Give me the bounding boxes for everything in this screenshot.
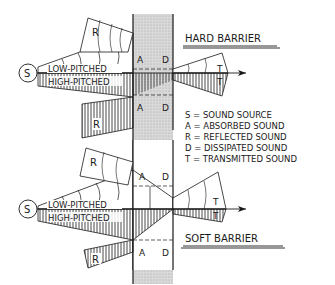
hard-low-pitched-label: LOW-PITCHED — [48, 64, 107, 74]
soft-transmitted-bottom-label: T — [212, 211, 219, 221]
soft-barrier-title: SOFT BARRIER — [185, 233, 258, 244]
sound-barrier-diagram: R R A D A D T T S LOW-PITCHED HIGH-PITCH… — [0, 0, 335, 285]
legend-item-dissipated: D = DISSIPATED SOUND — [185, 143, 288, 153]
soft-source-label: S — [24, 204, 30, 215]
hard-transmitted-top-label: T — [216, 64, 223, 74]
soft-absorbed-bottom-label: A — [139, 248, 146, 258]
soft-absorbed-top-label: A — [139, 172, 146, 182]
hard-reflected-top-label: R — [92, 27, 99, 38]
soft-high-pitched-label: HIGH-PITCHED — [48, 213, 110, 223]
hard-source-label: S — [24, 68, 30, 79]
soft-low-pitched-label: LOW-PITCHED — [48, 200, 107, 210]
hard-dissipated-top-label: D — [162, 55, 169, 65]
hard-reflected-bottom-fan — [82, 97, 133, 138]
soft-reflected-top-label: R — [90, 157, 97, 168]
soft-dissipated-bottom-label: D — [162, 248, 169, 258]
soft-transmitted-top-label: T — [212, 197, 219, 207]
soft-reflected-bottom-label: R — [92, 254, 99, 265]
legend-item-source: S = SOUND SOURCE — [185, 110, 272, 120]
hard-dissipated-bottom-label: D — [162, 103, 169, 113]
legend: S = SOUND SOURCE A = ABSORBED SOUND R = … — [184, 110, 297, 164]
hard-transmitted-bottom-label: T — [216, 77, 223, 87]
soft-dissipated-top-label: D — [162, 172, 169, 182]
legend-item-transmitted: T = TRANSMITTED SOUND — [184, 154, 297, 164]
hard-reflected-bottom-label: R — [93, 119, 100, 130]
hard-barrier-title: HARD BARRIER — [185, 33, 261, 44]
hard-high-pitched-label: HIGH-PITCHED — [48, 77, 110, 87]
legend-item-absorbed: A = ABSORBED SOUND — [185, 121, 285, 131]
hard-reflected-top-fan — [80, 18, 133, 52]
legend-item-reflected: R = REFLECTED SOUND — [185, 132, 287, 142]
hard-absorbed-top-label: A — [137, 55, 144, 65]
hard-absorbed-bottom-label: A — [137, 103, 144, 113]
soft-reflected-top-fan — [80, 148, 133, 185]
